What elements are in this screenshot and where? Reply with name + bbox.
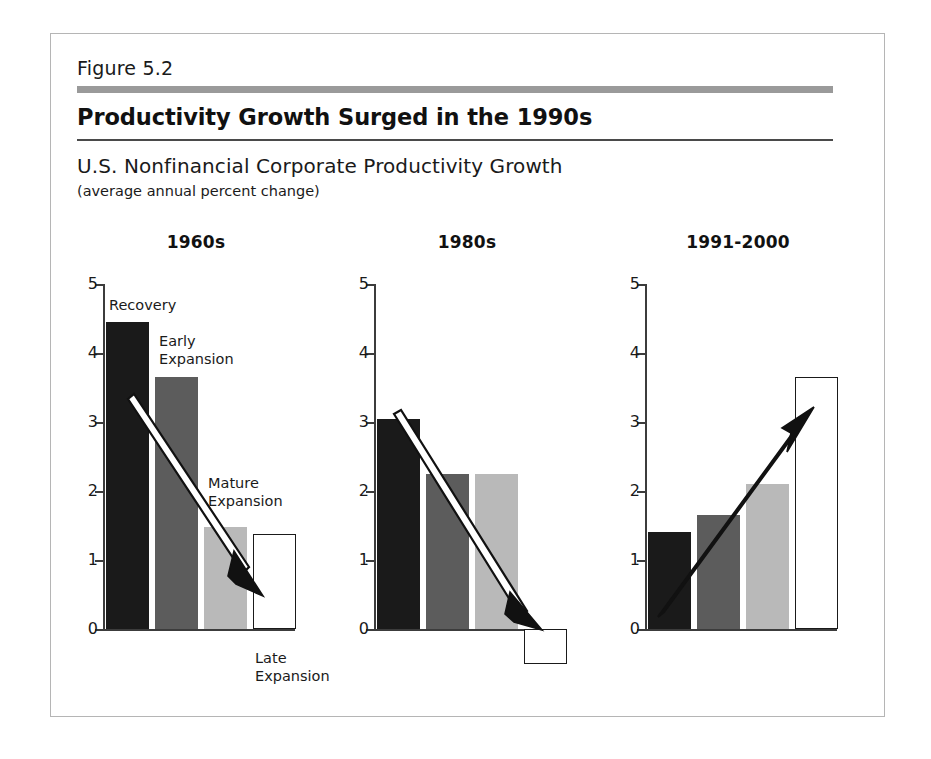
- bar-1960s-early-expansion: [155, 377, 198, 629]
- bar-1980s-late-expansion: [524, 629, 567, 664]
- y-tick-label-4: 4: [329, 345, 369, 361]
- figure-frame: Figure 5.2 Productivity Growth Surged in…: [50, 33, 885, 717]
- panel-title-1980s: 1980s: [344, 232, 590, 252]
- y-tick-label-2: 2: [329, 483, 369, 499]
- y-tick-label-0: 0: [329, 621, 369, 637]
- bar-1980s-early-expansion: [426, 474, 469, 629]
- y-tick-label-0: 0: [58, 621, 98, 637]
- plot-area-1960s: 5 4 3 2 1 0 Recovery Early Expansion Mat…: [73, 274, 319, 692]
- gray-rule-divider: [77, 86, 833, 93]
- chart-panels: 1960s 5 4 3 2 1 0: [73, 232, 863, 692]
- y-tick-label-5: 5: [600, 276, 640, 292]
- y-tick-label-2: 2: [58, 483, 98, 499]
- x-axis-baseline: [103, 629, 295, 631]
- figure-subtitle: U.S. Nonfinancial Corporate Productivity…: [77, 141, 833, 179]
- panel-1991-2000: 1991-2000 5 4 3 2 1 0: [615, 232, 861, 692]
- y-axis-line: [645, 284, 647, 629]
- bar-1980s-recovery: [377, 419, 420, 629]
- figure-units-note: (average annual percent change): [77, 179, 833, 201]
- bar-1991-2000-early-expansion: [697, 515, 740, 629]
- annotation-late-expansion: Late Expansion: [255, 649, 330, 685]
- y-tick-label-1: 1: [329, 552, 369, 568]
- plot-area-1991-2000: 5 4 3 2 1 0: [615, 274, 861, 692]
- bar-1960s-mature-expansion: [204, 527, 247, 629]
- y-axis-line: [374, 284, 376, 629]
- y-tick-label-3: 3: [58, 414, 98, 430]
- y-tick-label-0: 0: [600, 621, 640, 637]
- y-tick-label-1: 1: [600, 552, 640, 568]
- y-tick-label-3: 3: [329, 414, 369, 430]
- y-tick-label-1: 1: [58, 552, 98, 568]
- plot-area-1980s: 5 4 3 2 1 0: [344, 274, 590, 692]
- x-axis-baseline: [645, 629, 837, 631]
- bar-1960s-late-expansion: [253, 534, 296, 629]
- y-axis-line: [103, 284, 105, 629]
- y-tick-label-2: 2: [600, 483, 640, 499]
- panel-1980s: 1980s 5 4 3 2 1 0: [344, 232, 590, 692]
- y-tick-label-3: 3: [600, 414, 640, 430]
- y-tick-label-4: 4: [600, 345, 640, 361]
- y-tick-label-5: 5: [329, 276, 369, 292]
- panel-title-1960s: 1960s: [73, 232, 319, 252]
- y-tick-label-4: 4: [58, 345, 98, 361]
- panel-title-1991-2000: 1991-2000: [615, 232, 861, 252]
- figure-title: Productivity Growth Surged in the 1990s: [77, 93, 833, 139]
- figure-number: Figure 5.2: [77, 56, 833, 86]
- annotation-mature-expansion: Mature Expansion: [208, 474, 283, 510]
- bar-1991-2000-recovery: [648, 532, 691, 629]
- bar-1980s-mature-expansion: [475, 474, 518, 629]
- annotation-early-expansion: Early Expansion: [159, 332, 234, 368]
- annotation-recovery: Recovery: [109, 296, 176, 314]
- panel-1960s: 1960s 5 4 3 2 1 0: [73, 232, 319, 692]
- bar-1960s-recovery: [106, 322, 149, 629]
- figure-header: Figure 5.2 Productivity Growth Surged in…: [77, 56, 833, 201]
- bar-1991-2000-mature-expansion: [746, 484, 789, 629]
- y-tick-label-5: 5: [58, 276, 98, 292]
- bar-1991-2000-late-expansion: [795, 377, 838, 629]
